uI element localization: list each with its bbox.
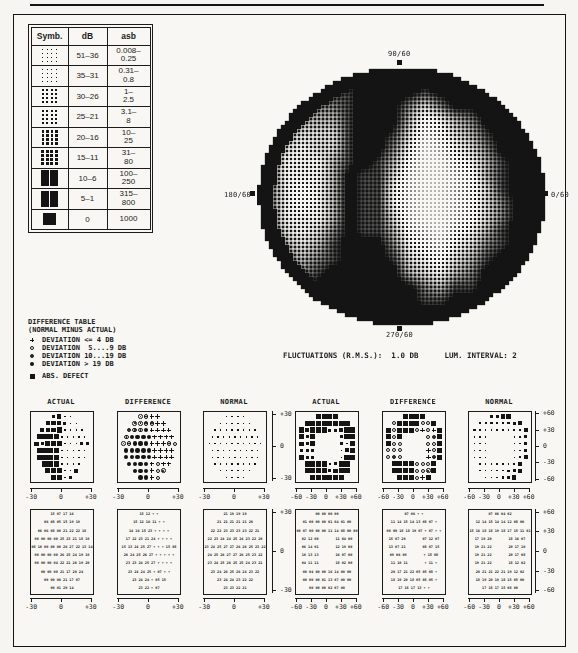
legend-symbol-dot <box>46 142 49 145</box>
plot-symbol <box>64 416 65 417</box>
x-axis: -300+30 <box>117 488 179 489</box>
x-axis-tick <box>443 598 444 602</box>
x-axis: -300+30 <box>30 598 92 599</box>
legend-symbol-dot <box>42 81 43 82</box>
plot-cell <box>344 467 350 474</box>
plot-symbol <box>437 434 442 439</box>
plot-symbol <box>86 442 89 445</box>
plot-symbol <box>420 428 425 433</box>
plot-symbol <box>299 455 304 460</box>
x-axis-tick <box>91 488 92 492</box>
plot-symbol <box>409 428 414 433</box>
legend-symbol-dot <box>42 138 45 141</box>
plot-symbol <box>246 450 247 451</box>
plot-symbol <box>48 455 53 460</box>
difference-legend-symbol <box>28 346 36 350</box>
plot-symbol <box>322 414 327 419</box>
plot-symbol <box>502 476 504 478</box>
plot-symbol <box>51 468 56 473</box>
x-axis-label: +60 <box>523 493 535 501</box>
y-axis-label: -30 <box>543 458 555 466</box>
plot-cell <box>68 474 74 481</box>
plot-symbol <box>34 442 38 446</box>
table-row: 00 04 00 00 16 14 00 00 <box>296 567 358 575</box>
difference-table-subtitle: (NORMAL MINUS ACTUAL) <box>28 326 126 334</box>
plot-symbol <box>426 442 430 446</box>
plot-symbol <box>344 468 349 473</box>
plot-row <box>296 454 358 461</box>
plot-cell <box>431 467 437 474</box>
x-axis-tick <box>296 598 297 602</box>
plot-symbol <box>57 414 61 418</box>
legend-symbol-dot <box>47 81 48 82</box>
plot-cell <box>258 440 264 447</box>
plot-symbol <box>491 470 492 471</box>
difference-table-title: DIFFERENCE TABLE <box>28 318 126 326</box>
plot-cell <box>169 447 175 454</box>
table-row: 18 19 20 18 05 08 05 + <box>383 576 445 584</box>
y-axis: +60+300-30-60 <box>535 509 536 593</box>
plot-symbol <box>161 468 166 473</box>
plot-symbol <box>299 427 304 432</box>
table-row: 20 21 21 22 21 19 12 02 <box>469 567 531 575</box>
legend-symbol-solid <box>43 213 56 225</box>
legend-symbol-dot <box>42 77 43 78</box>
plot-symbol <box>212 457 213 458</box>
x-axis-label: -60 <box>377 493 389 501</box>
plot-symbol <box>392 468 397 473</box>
table-row: 17 19 20 18 16 07 <box>469 535 531 543</box>
plot-symbol <box>156 469 160 473</box>
plot-symbol <box>350 427 355 432</box>
difference-legend-item: DEVIATION > 19 DB <box>28 360 126 368</box>
plot-symbol <box>234 450 235 451</box>
plot-row <box>118 420 180 427</box>
legend-symbol-dot <box>42 97 44 99</box>
legend-symbol-dot <box>51 73 52 74</box>
plot-symbol <box>231 416 232 417</box>
legend-symbol-dot <box>41 158 44 161</box>
plot-cell <box>155 474 161 481</box>
glyph-o <box>30 346 34 350</box>
y-axis-tick <box>535 571 539 572</box>
plot-symbol <box>229 450 230 451</box>
y-axis: +60+300-30-60 <box>535 411 536 481</box>
plot-row <box>118 427 180 434</box>
plot-symbol <box>156 476 160 480</box>
legend-symbol-grid <box>41 88 59 104</box>
plot-row <box>296 474 358 481</box>
y-axis-tick <box>535 462 539 463</box>
plot-symbol <box>507 422 509 424</box>
legend-symbol-grid <box>41 191 59 207</box>
legend-symbol-dot <box>55 162 58 165</box>
plot-symbol <box>40 428 44 432</box>
plot-symbol <box>350 434 355 439</box>
plot-symbol <box>415 462 419 466</box>
plot-symbol <box>426 428 430 432</box>
plot-symbol <box>496 422 498 424</box>
x-axis-label: 0 <box>411 603 415 611</box>
plot-symbol <box>514 457 515 458</box>
x-axis-tick <box>264 488 265 492</box>
plot-symbol <box>231 463 232 464</box>
plot-title: NORMAL <box>220 398 248 406</box>
legend-symbol-dot <box>42 57 43 58</box>
plot-symbol <box>409 468 414 473</box>
plot-cell <box>172 440 178 447</box>
legend-symbol-dot <box>50 182 54 186</box>
table-row: 00 00 00 02 07 00 <box>296 584 358 592</box>
table-row: 08 10 00 00 00 26 27 22 13 14 <box>31 543 93 551</box>
legend-symbol-dot <box>56 73 57 74</box>
plot-symbol <box>70 470 71 471</box>
plot-symbol <box>398 448 402 452</box>
legend-asb-value: 1000 <box>108 210 150 230</box>
y-axis-tick <box>535 479 539 480</box>
table-row: 19 21 22 20 17 08 <box>469 551 531 559</box>
plot-symbol <box>251 436 252 437</box>
table-row: 09 06 09 + 15 08 <box>383 551 445 559</box>
plot-symbol <box>150 428 155 433</box>
legend-table: Symb. dB asb 51–360.008– 0.2535–310.31– … <box>28 24 153 233</box>
table-row: 12 14 15 14 14 12 08 00 <box>469 518 531 526</box>
x-axis-tick <box>356 488 357 492</box>
plot-cell <box>523 433 529 440</box>
table-row: 11 14 15 14 13 08 07 + <box>383 518 445 526</box>
